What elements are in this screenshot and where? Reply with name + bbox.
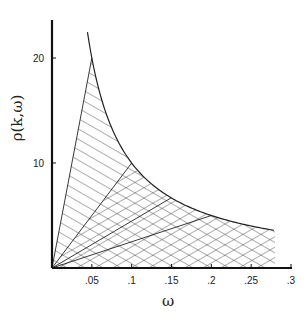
x-axis-label: ω (162, 292, 174, 310)
x-tick-label: .05 (85, 275, 99, 286)
x-tick-label: .3 (287, 275, 296, 286)
x-tick-label: .2 (207, 275, 216, 286)
chart-figure: .05.1.15.2.25.31020 ω ρ(k,ω) (0, 0, 308, 320)
y-tick-label: 20 (33, 53, 45, 64)
x-tick-label: .15 (165, 275, 179, 286)
y-tick-label: 10 (33, 158, 45, 169)
y-axis-label: ρ(k,ω) (8, 95, 26, 142)
x-tick-label: .1 (127, 275, 136, 286)
rho-vs-omega-plot: .05.1.15.2.25.31020 ω ρ(k,ω) (0, 0, 308, 320)
x-tick-label: .25 (244, 275, 258, 286)
